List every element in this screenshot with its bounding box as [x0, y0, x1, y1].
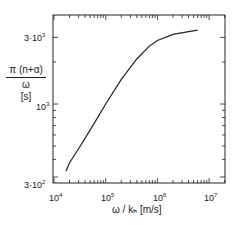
x-tick-1e5: 105 [101, 190, 114, 203]
plot-frame [53, 15, 225, 183]
x-tick-1e4: 104 [49, 190, 62, 203]
y-tick-3e3: 3·103 [24, 30, 45, 43]
fraction-bar [6, 77, 46, 78]
y-label-numerator: π (n+α) [6, 64, 46, 76]
data-curve [66, 30, 198, 171]
y-label-denominator: ω [6, 79, 46, 91]
y-axis-label: π (n+α) ω [s] [6, 64, 46, 103]
x-tick-1e7: 107 [204, 190, 217, 203]
y-tick-3e2: 3·102 [24, 177, 45, 190]
x-axis-label: ω / kₕ [m/s] [112, 205, 162, 215]
x-tick-1e6: 106 [153, 190, 166, 203]
y-tick-1e3: 103 [36, 99, 49, 112]
axis-ticks [53, 15, 225, 183]
